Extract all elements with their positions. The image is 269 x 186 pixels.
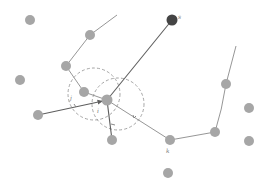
edge-n13-n10	[215, 84, 226, 132]
edge-s-i	[107, 20, 172, 100]
label-s: s	[178, 13, 181, 20]
graph-diagram: i s k j	[0, 0, 269, 186]
node	[15, 75, 25, 85]
node-j	[79, 87, 89, 97]
node-i-center	[102, 95, 113, 106]
node	[61, 61, 71, 71]
label-k: k	[166, 147, 170, 154]
node	[244, 103, 254, 113]
edge-n2-n3	[66, 35, 90, 66]
node	[163, 168, 173, 178]
node-s-source	[167, 15, 178, 26]
node	[221, 79, 231, 89]
edge-k-n13	[170, 132, 215, 140]
node	[244, 136, 254, 146]
edge-i-n9	[107, 100, 112, 140]
label-i: i	[97, 107, 99, 114]
edge-stub-top-left	[90, 15, 117, 35]
node	[85, 30, 95, 40]
edge-n8-i	[38, 101, 103, 115]
node	[25, 15, 35, 25]
node	[107, 135, 117, 145]
node	[210, 127, 220, 137]
node-k	[165, 135, 175, 145]
node	[33, 110, 43, 120]
edge-i-k	[107, 100, 170, 140]
angle-mark-bottom	[111, 124, 115, 125]
edge-stub-right	[226, 46, 236, 84]
angle-mark-right	[133, 115, 136, 118]
